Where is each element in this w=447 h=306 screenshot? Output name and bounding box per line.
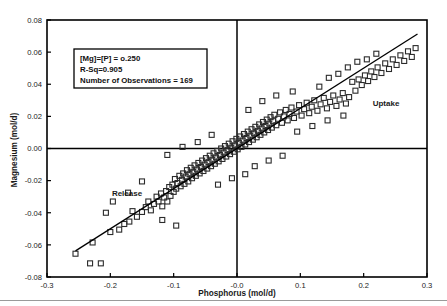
x-tick-label: -0.2: [104, 281, 117, 290]
y-tick-label: 0.00: [27, 144, 42, 153]
y-tick-label: 0.04: [27, 80, 42, 89]
y-tick-label: 0.08: [27, 16, 42, 25]
uptake-quadrant-label: Uptake: [373, 99, 400, 108]
x-tick-label: 0.3: [422, 281, 433, 290]
footer-divider: [0, 300, 447, 301]
x-tick-label: 0.2: [358, 281, 369, 290]
statbox-line-rsq: R-Sq=0.905: [80, 65, 123, 74]
x-tick-label: -0.3: [40, 281, 53, 290]
chart-background: [0, 0, 447, 306]
statbox-line-observations: Number of Observations = 169: [80, 76, 194, 85]
statistics-box: [Mg]=[P] = o.250 R-Sq=0.905 Number of Ob…: [74, 49, 207, 88]
y-tick-label: -0.02: [25, 176, 42, 185]
y-axis-title: Magnesium (mol/d): [10, 112, 19, 187]
x-tick-label: 0.1: [295, 281, 306, 290]
scatter-chart-figure: -0.3-0.2-0.1-0.00.10.20.3-0.08-0.06-0.04…: [0, 0, 447, 306]
statbox-line-slope: [Mg]=[P] = o.250: [80, 54, 141, 63]
release-quadrant-label: Release: [112, 189, 143, 198]
y-tick-label: 0.02: [27, 112, 42, 121]
x-axis-title: Phosphorus (mol/d): [198, 289, 276, 298]
y-tick-label: -0.04: [25, 209, 42, 218]
x-tick-label: -0.1: [167, 281, 180, 290]
chart-canvas: -0.3-0.2-0.1-0.00.10.20.3-0.08-0.06-0.04…: [0, 0, 447, 306]
y-tick-label: -0.08: [25, 273, 42, 282]
y-tick-label: -0.06: [25, 241, 42, 250]
y-tick-label: 0.06: [27, 48, 42, 57]
